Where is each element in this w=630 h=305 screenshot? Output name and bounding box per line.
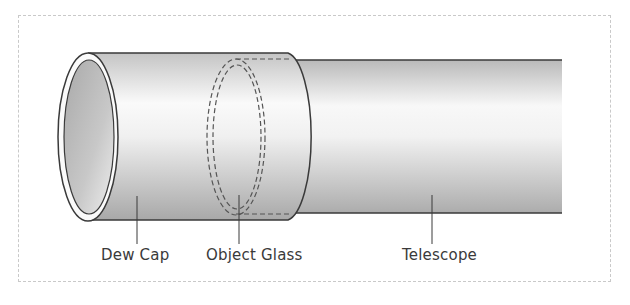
dew-cap-opening (64, 60, 114, 214)
dew-cap (58, 53, 311, 221)
label-telescope: Telescope (402, 246, 477, 264)
label-object-glass: Object Glass (206, 246, 303, 264)
telescope-illustration (0, 0, 630, 305)
telescope-tube (290, 60, 562, 213)
label-dew-cap: Dew Cap (101, 246, 169, 264)
